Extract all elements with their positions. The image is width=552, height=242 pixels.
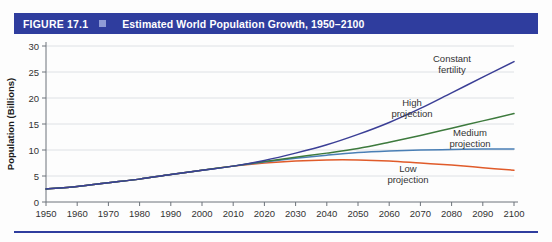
figure-title-label: Estimated World Population Growth, 1950–… (122, 18, 364, 30)
series-annotation-line1: Constant (433, 53, 471, 64)
x-axis-tick-label: 2050 (347, 208, 368, 219)
chart-svg: 051015202530 195019601970198019902000201… (0, 34, 552, 224)
y-axis-tick-label: 0 (34, 197, 39, 208)
x-axis-tick-label: 2070 (410, 208, 431, 219)
y-axis-title: Population (Billions) (5, 78, 16, 170)
x-axis-tick-labels: 1950196019701980199020002010202020302040… (35, 208, 524, 219)
y-axis-tick-label: 15 (28, 119, 39, 130)
series-line-high-projection (46, 149, 514, 189)
x-axis-tick-label: 2040 (316, 208, 337, 219)
y-axis-ticks-group (42, 46, 46, 202)
x-axis-tick-label: 1980 (129, 208, 150, 219)
y-axis-tick-label: 20 (28, 93, 39, 104)
series-annotation-line2: projection (391, 108, 432, 119)
x-axis-ticks-group (46, 202, 514, 206)
x-axis-tick-label: 2090 (472, 208, 493, 219)
x-axis-tick-label: 1970 (98, 208, 119, 219)
y-axis-tick-label: 25 (28, 67, 39, 78)
x-axis-tick-label: 2020 (254, 208, 275, 219)
y-axis-tick-label: 30 (28, 41, 39, 52)
y-axis-tick-labels: 051015202530 (28, 41, 39, 208)
series-line-constant-fertility (46, 62, 514, 189)
figure-number-label: FIGURE 17.1 (23, 18, 88, 30)
line-chart: 051015202530 195019601970198019902000201… (0, 34, 552, 224)
series-lines-group (46, 62, 514, 189)
series-annotation-line1: High (402, 97, 422, 108)
series-annotation-line1: Medium (453, 127, 487, 138)
series-annotations-group: ConstantfertilityHighprojectionMediumpro… (387, 53, 490, 185)
y-axis-tick-label: 5 (34, 171, 39, 182)
y-axis-tick-label: 10 (28, 145, 39, 156)
x-axis-tick-label: 1950 (35, 208, 56, 219)
figure-bottom-rule (14, 231, 538, 233)
series-annotation-line1: Low (399, 163, 417, 174)
figure-title-bar: FIGURE 17.1 Estimated World Population G… (14, 13, 538, 34)
x-axis-tick-label: 2010 (223, 208, 244, 219)
x-axis-tick-label: 1990 (160, 208, 181, 219)
series-line-low-projection (46, 160, 514, 189)
series-annotation-line2: projection (387, 174, 428, 185)
square-bullet-icon (99, 20, 106, 27)
series-line-medium-projection (46, 114, 514, 189)
series-annotation-line2: projection (449, 138, 490, 149)
x-axis-tick-label: 2000 (191, 208, 212, 219)
series-annotation-line2: fertility (438, 64, 466, 75)
x-axis-tick-label: 2080 (441, 208, 462, 219)
x-axis-tick-label: 1960 (67, 208, 88, 219)
x-axis-tick-label: 2030 (285, 208, 306, 219)
x-axis-tick-label: 2100 (503, 208, 524, 219)
x-axis-tick-label: 2060 (379, 208, 400, 219)
figure-container: FIGURE 17.1 Estimated World Population G… (0, 0, 552, 242)
